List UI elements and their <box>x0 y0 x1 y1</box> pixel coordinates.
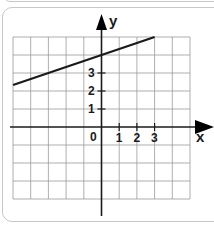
coordinate-graph: y x 0 1 2 3 1 2 3 <box>0 0 214 228</box>
y-tick-label-3: 3 <box>88 66 95 80</box>
x-tick-label-1: 1 <box>116 131 123 145</box>
y-axis-arrow-icon <box>96 14 107 30</box>
origin-label: 0 <box>90 130 97 144</box>
axes <box>10 14 214 216</box>
y-tick-label-2: 2 <box>88 84 95 98</box>
ticks <box>98 73 155 131</box>
x-tick-label-3: 3 <box>151 131 158 145</box>
y-tick-label-1: 1 <box>88 102 95 116</box>
x-axis-label: x <box>196 128 205 145</box>
x-tick-label-2: 2 <box>133 131 140 145</box>
y-axis-label: y <box>109 12 118 29</box>
